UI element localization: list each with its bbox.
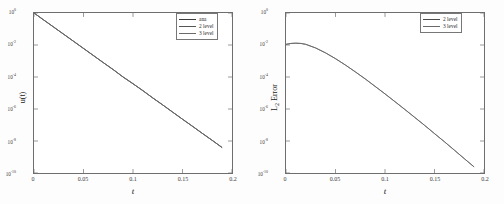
- y-tick-label: 10-4: [260, 74, 268, 80]
- x-tick-label: 0.1: [381, 176, 389, 182]
- y-tick-label: 10-10: [6, 171, 16, 177]
- legend-swatch: [179, 19, 196, 20]
- x-tick-label: 0.2: [229, 176, 237, 182]
- chart-panel-left: 10010-210-410-610-810-10 00.050.10.150.2…: [0, 0, 252, 204]
- y-axis-label-right-subscript: 2: [274, 103, 280, 106]
- y-tick-label: 10-2: [8, 41, 16, 47]
- y-tick-label: 10-6: [8, 106, 16, 112]
- x-tick-label: 0.15: [430, 176, 441, 182]
- y-tick-label: 10-8: [260, 139, 268, 145]
- x-axis-label-left: t: [132, 186, 135, 196]
- y-axis-label-right: L2 Error: [270, 58, 279, 138]
- y-tick-label: 10-2: [260, 41, 268, 47]
- x-tick-label: 0.05: [78, 176, 89, 182]
- y-tick-label: 10-10: [258, 171, 268, 177]
- legend-swatch: [179, 26, 196, 27]
- legend-label: 2 level: [199, 23, 214, 30]
- y-axis-label-right-tail: Error: [270, 84, 279, 103]
- legend-swatch: [423, 26, 440, 27]
- legend-swatch: [179, 33, 196, 34]
- figure-canvas: 10010-210-410-610-810-10 00.050.10.150.2…: [0, 0, 504, 204]
- y-axis-label-right-main: L: [270, 106, 279, 111]
- legend-right[interactable]: 2 level3 level: [420, 13, 462, 33]
- x-tick-label: 0.15: [178, 176, 189, 182]
- legend-item[interactable]: 3 level: [423, 23, 458, 30]
- x-tick-label: 0.1: [129, 176, 137, 182]
- legend-label: ana: [199, 16, 206, 23]
- legend-item[interactable]: 2 level: [423, 16, 458, 23]
- plot-curves-right: [286, 13, 484, 173]
- chart-panel-right: 10010-210-410-610-810-10 00.050.10.150.2…: [252, 0, 504, 204]
- x-axis-label-right: t: [384, 186, 387, 196]
- legend-swatch: [423, 19, 440, 20]
- y-tick-label: 10-6: [260, 106, 268, 112]
- x-tick-label: 0.2: [481, 176, 489, 182]
- y-axis-label-left: u(t): [18, 58, 27, 138]
- legend-item[interactable]: 2 level: [179, 23, 214, 30]
- legend-item[interactable]: 3 level: [179, 30, 214, 37]
- legend-item[interactable]: ana: [179, 16, 214, 23]
- legend-label: 2 level: [443, 16, 458, 23]
- x-tick-label: 0.05: [330, 176, 341, 182]
- legend-label: 3 level: [199, 30, 214, 37]
- y-tick-label: 10-4: [8, 74, 16, 80]
- x-tick-label: 0: [32, 176, 35, 182]
- plot-area-right: [285, 12, 485, 174]
- legend-label: 3 level: [443, 23, 458, 30]
- y-tick-label: 100: [9, 9, 16, 15]
- y-tick-label: 10-8: [8, 139, 16, 145]
- legend-left[interactable]: ana2 level3 level: [176, 13, 218, 40]
- y-tick-label: 100: [261, 9, 268, 15]
- x-tick-label: 0: [284, 176, 287, 182]
